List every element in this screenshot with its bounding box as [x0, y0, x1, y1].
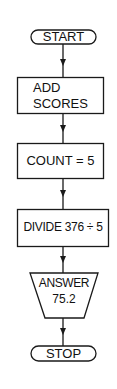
start-label: START	[31, 30, 96, 44]
arrowhead-icon	[60, 190, 66, 197]
add-scores-label-line2: SCORES	[33, 96, 88, 111]
add-scores-label-line1: ADD	[33, 80, 60, 95]
answer-value: 75.2	[30, 292, 98, 307]
stop-label: STOP	[31, 346, 96, 361]
arrowhead-icon	[60, 328, 66, 335]
arrowhead-icon	[60, 59, 66, 66]
divide-label: DIVIDE 376 ÷ 5	[17, 220, 109, 235]
count-label: COUNT = 5	[17, 153, 104, 168]
answer-label-line1: ANSWER	[30, 276, 98, 291]
flowchart-canvas	[0, 0, 117, 389]
arrowhead-icon	[60, 256, 66, 263]
arrowhead-icon	[60, 125, 66, 132]
